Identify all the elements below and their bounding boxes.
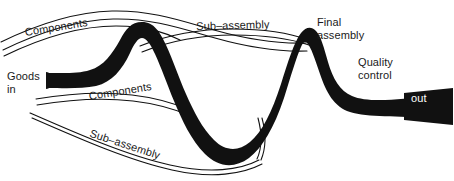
label-final-assembly: Final assembly <box>317 16 364 42</box>
process-flow-diagram: Goods in Components Sub–assembly Compone… <box>0 0 454 181</box>
goods-in-stub <box>46 72 50 89</box>
label-quality-control: Quality control <box>358 56 393 82</box>
label-goods-in: Goods in <box>7 70 40 96</box>
label-subassembly-top: Sub–assembly <box>196 18 270 32</box>
label-goods-out: Goods out <box>411 79 444 105</box>
